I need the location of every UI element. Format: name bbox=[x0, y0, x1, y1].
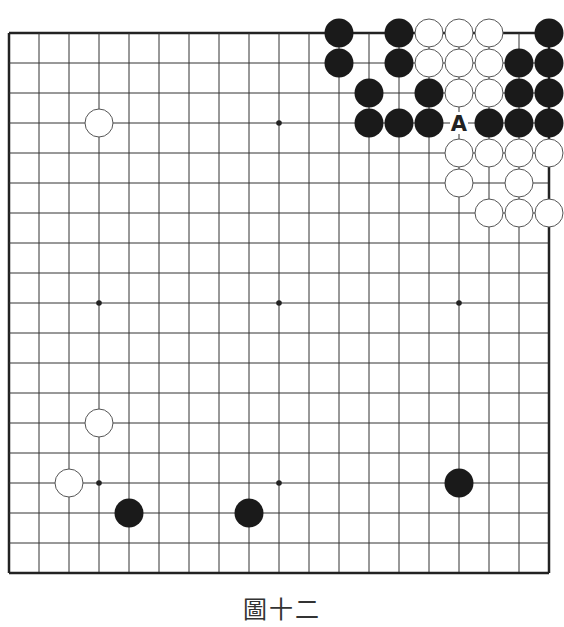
black-stone bbox=[535, 109, 564, 138]
white-stone bbox=[475, 49, 503, 77]
white-stone bbox=[85, 109, 113, 137]
white-stone bbox=[85, 409, 113, 437]
black-stone bbox=[385, 109, 414, 138]
black-stone bbox=[415, 79, 444, 108]
black-stone bbox=[385, 19, 414, 48]
black-stone bbox=[445, 469, 474, 498]
black-stone bbox=[355, 79, 384, 108]
white-stone bbox=[445, 19, 473, 47]
white-stone bbox=[445, 139, 473, 167]
white-stone bbox=[535, 199, 563, 227]
white-stone bbox=[445, 49, 473, 77]
black-stone bbox=[505, 49, 534, 78]
black-stone bbox=[325, 49, 354, 78]
black-stone bbox=[535, 19, 564, 48]
white-stone bbox=[445, 79, 473, 107]
black-stone bbox=[115, 499, 144, 528]
white-stone bbox=[415, 19, 443, 47]
white-stone bbox=[475, 79, 503, 107]
white-stone bbox=[535, 139, 563, 167]
black-stone bbox=[325, 19, 354, 48]
black-stone bbox=[505, 109, 534, 138]
black-stone bbox=[415, 109, 444, 138]
star-point bbox=[276, 480, 282, 486]
black-stone bbox=[385, 49, 414, 78]
black-stone bbox=[535, 79, 564, 108]
white-stone bbox=[55, 469, 83, 497]
white-stone bbox=[445, 169, 473, 197]
white-stone bbox=[505, 169, 533, 197]
white-stone bbox=[475, 139, 503, 167]
star-point bbox=[96, 300, 102, 306]
star-point bbox=[276, 120, 282, 126]
white-stone bbox=[475, 19, 503, 47]
figure-caption: 圖十二 bbox=[0, 590, 564, 625]
point-labels: A bbox=[450, 112, 468, 136]
black-stone bbox=[355, 109, 384, 138]
star-point bbox=[276, 300, 282, 306]
black-stone bbox=[475, 109, 504, 138]
black-stone bbox=[505, 79, 534, 108]
black-stone bbox=[235, 499, 264, 528]
star-point bbox=[96, 480, 102, 486]
black-stone bbox=[535, 49, 564, 78]
white-stone bbox=[505, 139, 533, 167]
star-point bbox=[456, 300, 462, 306]
white-stone bbox=[475, 199, 503, 227]
go-board: A bbox=[0, 0, 564, 590]
white-stone bbox=[415, 49, 443, 77]
point-label-a: A bbox=[451, 112, 468, 136]
white-stone bbox=[505, 199, 533, 227]
